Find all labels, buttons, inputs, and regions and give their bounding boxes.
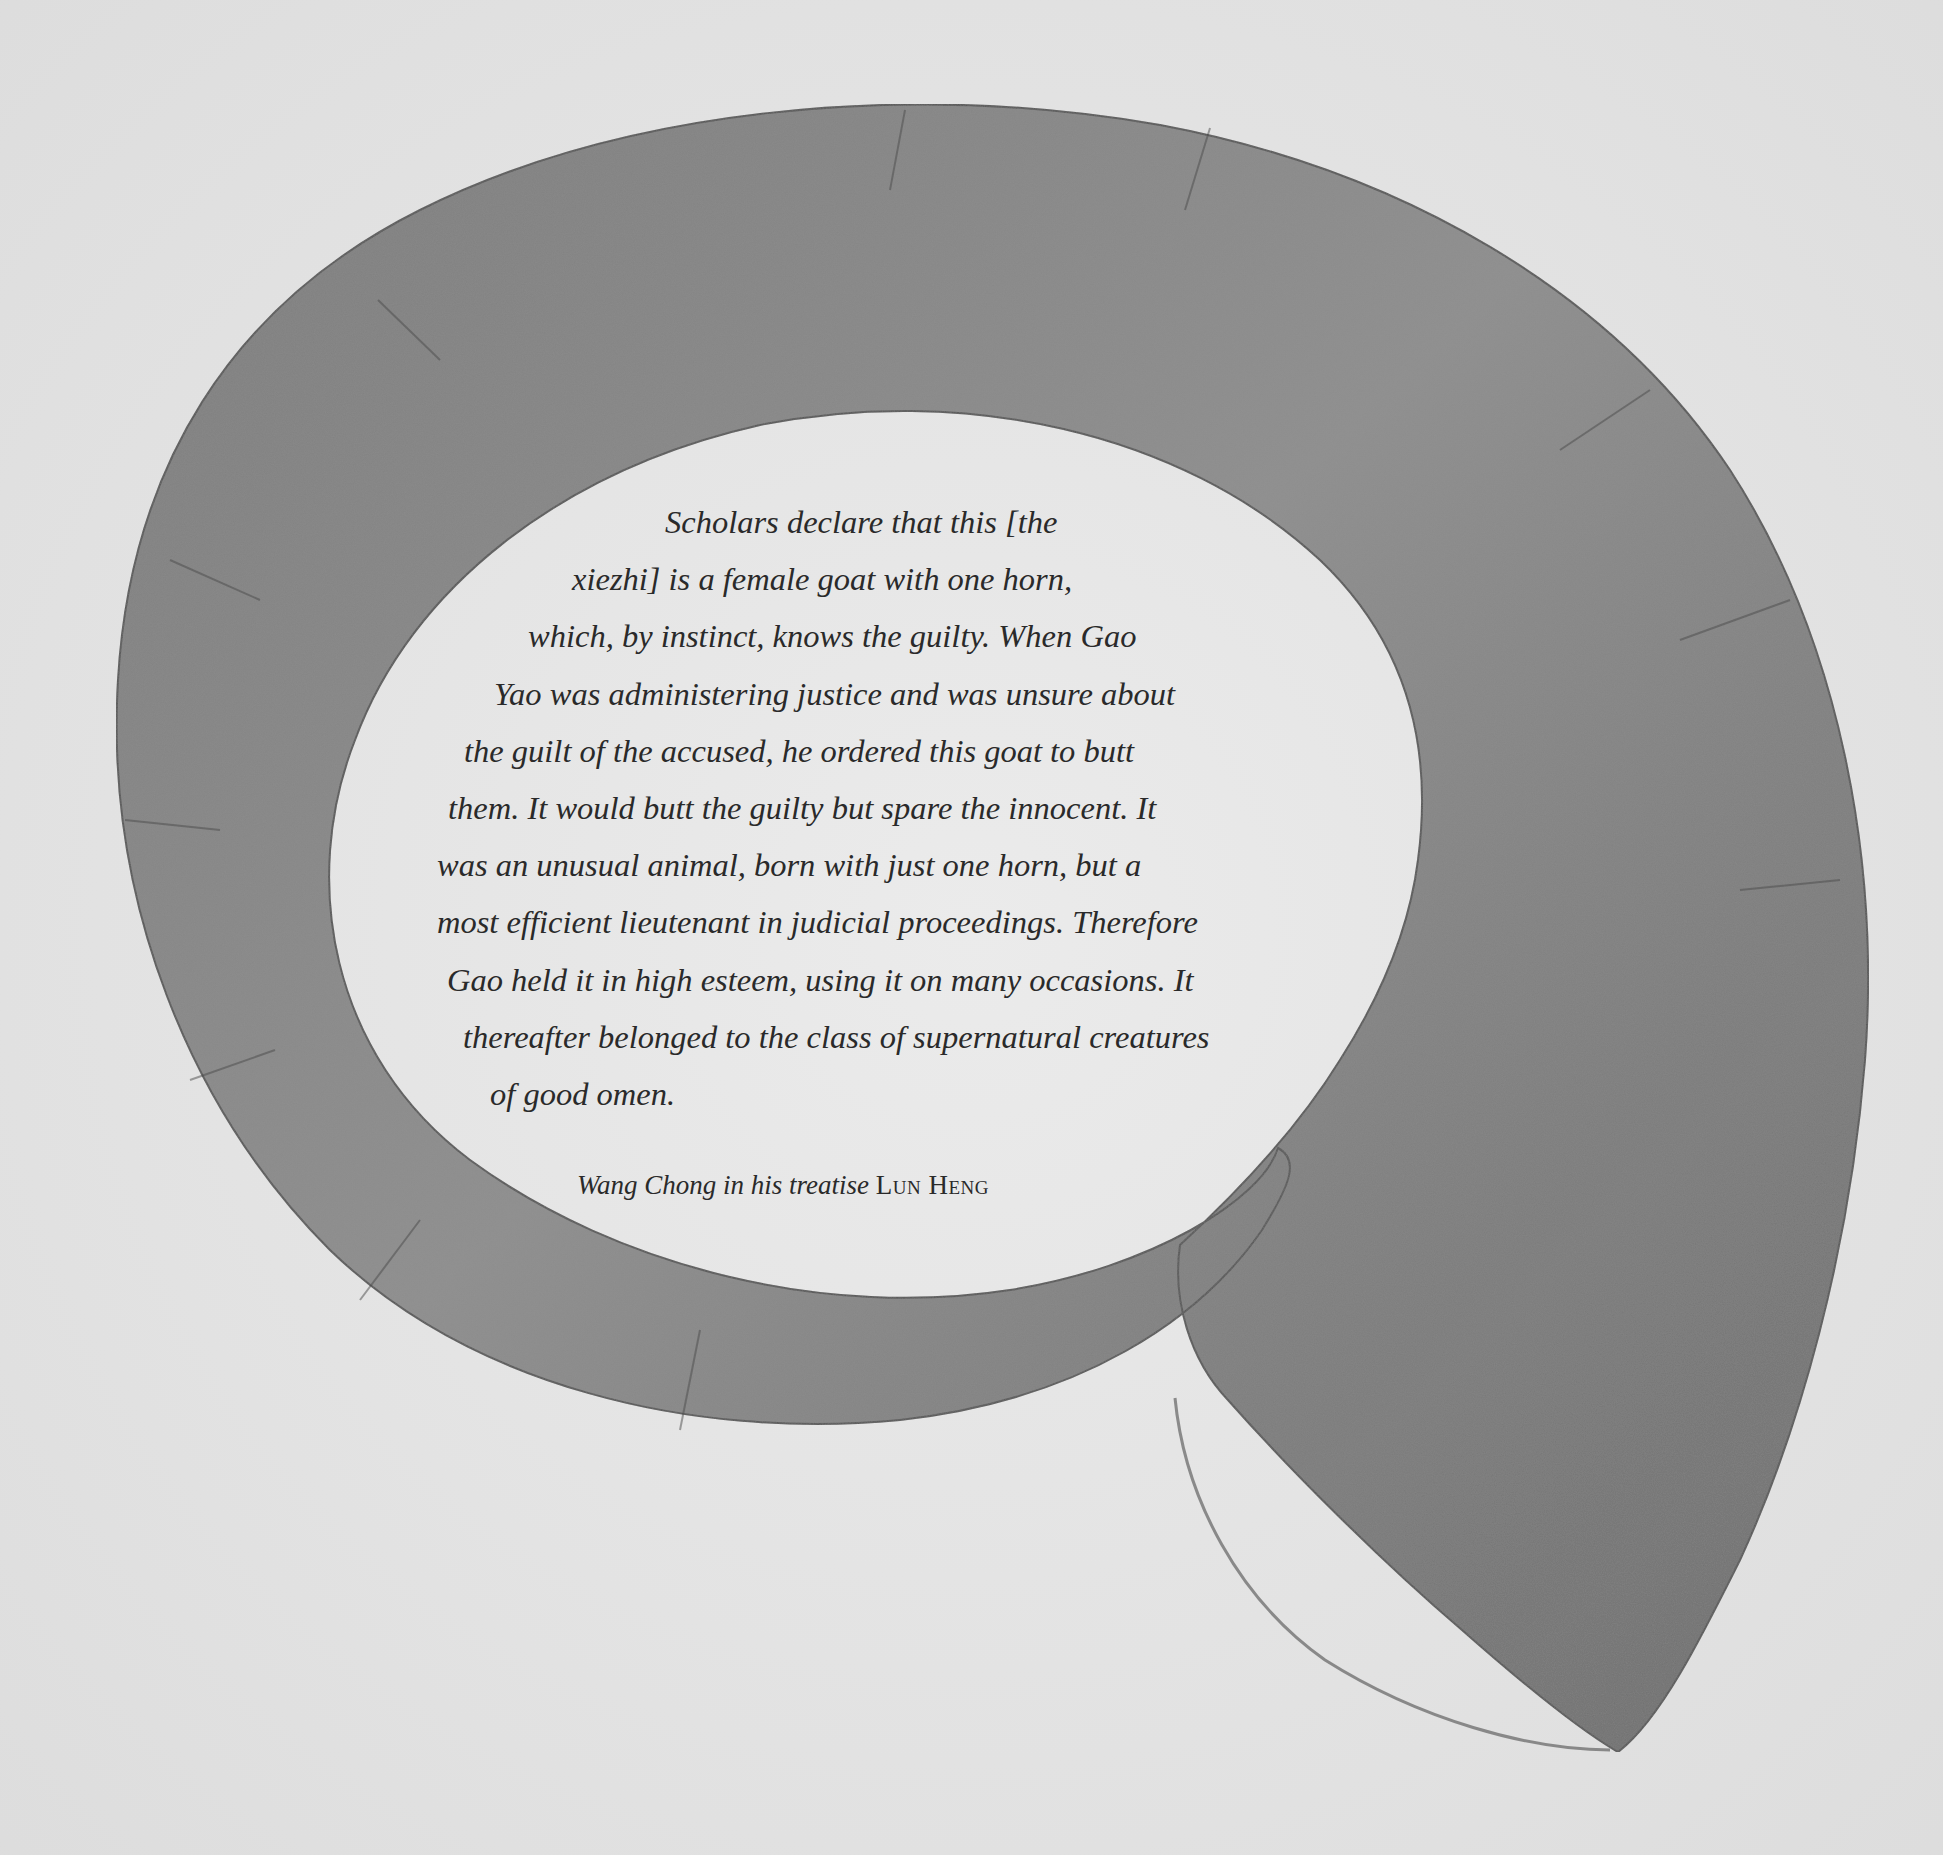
quote-line: which, by instinct, knows the guilty. Wh…: [528, 616, 1136, 656]
illustration-page: Scholars declare that this [the xiezhi] …: [0, 0, 1943, 1855]
quote-line: thereafter belonged to the class of supe…: [463, 1017, 1209, 1057]
quote-line: most efficient lieutenant in judicial pr…: [437, 902, 1198, 942]
quote-line: Yao was administering justice and was un…: [494, 674, 1175, 714]
quote-line: of good omen.: [490, 1074, 675, 1114]
quote-line: was an unusual animal, born with just on…: [437, 845, 1141, 885]
quote-line: the guilt of the accused, he ordered thi…: [464, 731, 1134, 771]
attribution-work-title: Lun Heng: [876, 1170, 989, 1200]
quote-line: xiezhi] is a female goat with one horn,: [572, 559, 1072, 599]
quote-line: Gao held it in high esteem, using it on …: [447, 960, 1194, 1000]
quote-line: Scholars declare that this [the: [665, 502, 1057, 542]
attribution-author: Wang Chong in his treatise: [577, 1170, 869, 1200]
quote-attribution: Wang Chong in his treatise Lun Heng: [577, 1170, 989, 1201]
quote-line: them. It would butt the guilty but spare…: [448, 788, 1156, 828]
